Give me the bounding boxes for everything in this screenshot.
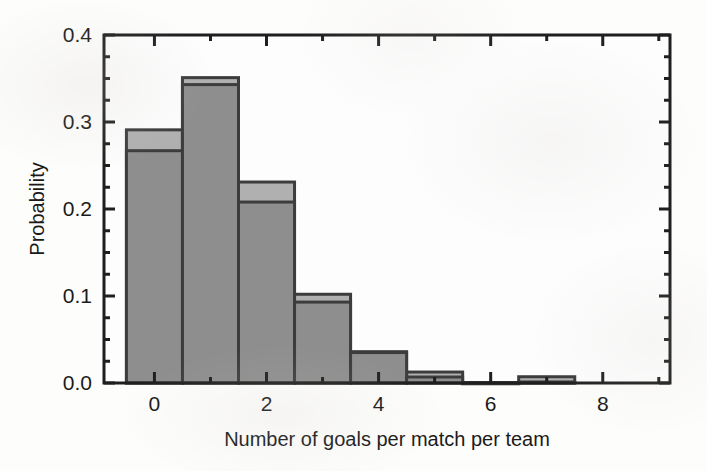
figure-container: 024680.00.10.20.30.4 Probability Number … xyxy=(0,0,707,471)
y-axis-title: Probability xyxy=(26,162,48,255)
bar-inner-histogram-1 xyxy=(182,85,238,383)
y-tick-label-0.4: 0.4 xyxy=(63,23,93,46)
x-tick-label-0: 0 xyxy=(149,392,161,415)
probability-histogram-chart: 024680.00.10.20.30.4 Probability Number … xyxy=(0,0,707,471)
bar-inner-histogram-0 xyxy=(126,151,182,383)
y-tick-label-0.1: 0.1 xyxy=(63,284,92,307)
x-tick-label-2: 2 xyxy=(261,392,273,415)
y-tick-label-0.3: 0.3 xyxy=(63,110,92,133)
x-tick-label-6: 6 xyxy=(485,392,497,415)
bar-inner-histogram-3 xyxy=(295,302,351,383)
y-tick-label-0.0: 0.0 xyxy=(63,371,92,394)
y-tick-label-0.2: 0.2 xyxy=(63,197,92,220)
x-tick-label-8: 8 xyxy=(597,392,609,415)
bar-inner-histogram-2 xyxy=(239,202,295,383)
x-axis-title: Number of goals per match per team xyxy=(224,428,550,450)
x-tick-label-4: 4 xyxy=(373,392,385,415)
